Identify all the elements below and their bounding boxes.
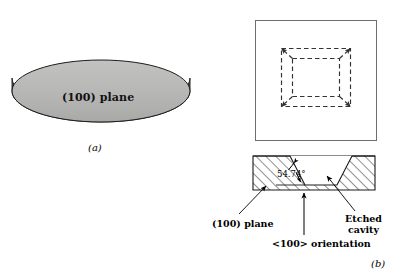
wafer-plane-label: (100) plane xyxy=(62,92,134,104)
top-view-substrate-outline xyxy=(256,21,377,141)
etched-cavity-label: Etched cavity xyxy=(345,213,382,235)
figure-root: (100) plane (a) 54.74° (100) plane <100>… xyxy=(0,0,403,279)
caption-b: (b) xyxy=(371,258,385,269)
etched-cavity-label-line1: Etched xyxy=(345,213,382,224)
caption-a: (a) xyxy=(88,142,102,153)
orientation-label: <100> orientation xyxy=(272,239,371,250)
cross-section-plane-label: (100) plane xyxy=(212,219,274,230)
panel-b-top-view xyxy=(256,21,377,141)
etched-cavity-label-line2: cavity xyxy=(348,224,379,235)
etch-angle-label: 54.74° xyxy=(277,170,306,180)
